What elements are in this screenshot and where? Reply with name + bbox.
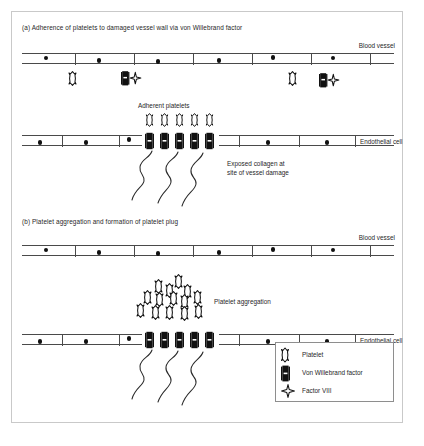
panel-b-blood-vessel-label: Blood vessel bbox=[359, 234, 395, 241]
cell-divider bbox=[370, 246, 371, 257]
cell-divider bbox=[252, 54, 253, 65]
panel-b-bottom-wall-left bbox=[22, 334, 142, 345]
platelet-icon bbox=[280, 347, 298, 363]
exposed-collagen-label-line1: Exposed collagen at bbox=[227, 160, 285, 169]
legend-item-factor-viii: Factor VIII bbox=[276, 383, 395, 399]
endothelial-nucleus bbox=[156, 59, 160, 63]
legend-item-platelet: Platelet bbox=[276, 347, 395, 363]
von-willebrand-factor-icon bbox=[280, 365, 298, 381]
exposed-collagen-fibers bbox=[130, 148, 235, 212]
adherent-platelet bbox=[175, 113, 184, 127]
endothelial-nucleus bbox=[38, 140, 42, 144]
endothelial-nucleus bbox=[325, 140, 329, 144]
exposed-collagen-fibers bbox=[130, 347, 235, 411]
cell-divider bbox=[62, 136, 63, 147]
endothelial-nucleus bbox=[331, 248, 335, 252]
cell-divider bbox=[239, 335, 240, 346]
legend-label-von-willebrand-factor: Von Willebrand factor bbox=[302, 369, 363, 376]
endothelial-nucleus bbox=[331, 56, 335, 60]
free-platelet bbox=[68, 71, 77, 86]
adherent-platelet bbox=[160, 113, 169, 127]
cell-divider bbox=[62, 335, 63, 346]
endothelial-nucleus bbox=[84, 339, 88, 343]
cell-divider bbox=[355, 136, 356, 147]
cell-divider bbox=[75, 54, 76, 65]
factor-viii-icon bbox=[280, 383, 298, 399]
legend-label-platelet: Platelet bbox=[302, 351, 323, 358]
panel-b-top-vessel-wall bbox=[22, 245, 394, 256]
legend-label-factor-viii: Factor VIII bbox=[302, 387, 331, 394]
cell-divider bbox=[299, 136, 300, 147]
endothelial-nucleus bbox=[271, 55, 275, 59]
cell-divider bbox=[119, 335, 120, 346]
cell-divider bbox=[239, 136, 240, 147]
von-willebrand-factor-icon bbox=[121, 71, 129, 85]
cell-divider bbox=[193, 246, 194, 257]
factor-viii-icon bbox=[328, 74, 339, 86]
panel-b: (b) Platelet aggregation and formation o… bbox=[12, 212, 404, 424]
panel-a: (a) Adherence of platelets to damaged ve… bbox=[12, 12, 404, 212]
endothelial-nucleus bbox=[44, 248, 48, 252]
panel-a-top-vessel-wall bbox=[22, 53, 394, 64]
panel-a-blood-vessel-label: Blood vessel bbox=[359, 42, 395, 49]
platelet-aggregation-cluster bbox=[136, 274, 222, 334]
cell-divider bbox=[252, 246, 253, 257]
cell-divider bbox=[134, 246, 135, 257]
figure-container: (a) Adherence of platelets to damaged ve… bbox=[11, 11, 403, 423]
adherent-platelets-label: Adherent platelets bbox=[138, 102, 190, 111]
cell-divider bbox=[75, 246, 76, 257]
endothelial-nucleus bbox=[97, 58, 101, 62]
endothelial-nucleus bbox=[271, 247, 275, 251]
cell-divider bbox=[119, 136, 120, 147]
panel-a-title: (a) Adherence of platelets to damaged ve… bbox=[22, 24, 242, 31]
endothelial-nucleus bbox=[266, 339, 270, 343]
legend-item-von-willebrand-factor: Von Willebrand factor bbox=[276, 365, 395, 381]
factor-viii-icon bbox=[130, 72, 141, 84]
adherent-platelet bbox=[145, 113, 154, 127]
endothelial-nucleus bbox=[217, 250, 221, 254]
endothelial-nucleus bbox=[156, 251, 160, 255]
cell-divider bbox=[370, 54, 371, 65]
adherent-platelet bbox=[190, 113, 199, 127]
legend-box: Platelet Von Willebrand factor bbox=[275, 342, 394, 402]
endothelial-nucleus bbox=[84, 140, 88, 144]
vwf-factor8-complex bbox=[318, 72, 340, 93]
cell-divider bbox=[193, 54, 194, 65]
endothelial-nucleus bbox=[127, 137, 131, 141]
endothelial-nucleus bbox=[38, 339, 42, 343]
panel-b-title: (b) Platelet aggregation and formation o… bbox=[22, 218, 178, 225]
cell-divider bbox=[311, 246, 312, 257]
adherent-platelet bbox=[205, 113, 214, 127]
endothelial-nucleus bbox=[97, 250, 101, 254]
panel-a-endothelial-cell-label: Endothelial cell bbox=[360, 138, 402, 145]
endothelial-nucleus bbox=[217, 58, 221, 62]
panel-a-bottom-wall-left bbox=[22, 135, 142, 146]
endothelial-nucleus bbox=[44, 56, 48, 60]
von-willebrand-factor-icon bbox=[319, 73, 327, 87]
endothelial-nucleus bbox=[127, 336, 131, 340]
endothelial-nucleus bbox=[266, 140, 270, 144]
vwf-factor8-complex bbox=[120, 70, 142, 91]
free-platelet bbox=[288, 71, 297, 86]
exposed-collagen-label-line2: site of vessel damage bbox=[227, 169, 289, 178]
platelet-aggregation-label: Platelet aggregation bbox=[214, 298, 271, 307]
cell-divider bbox=[311, 54, 312, 65]
cell-divider bbox=[134, 54, 135, 65]
